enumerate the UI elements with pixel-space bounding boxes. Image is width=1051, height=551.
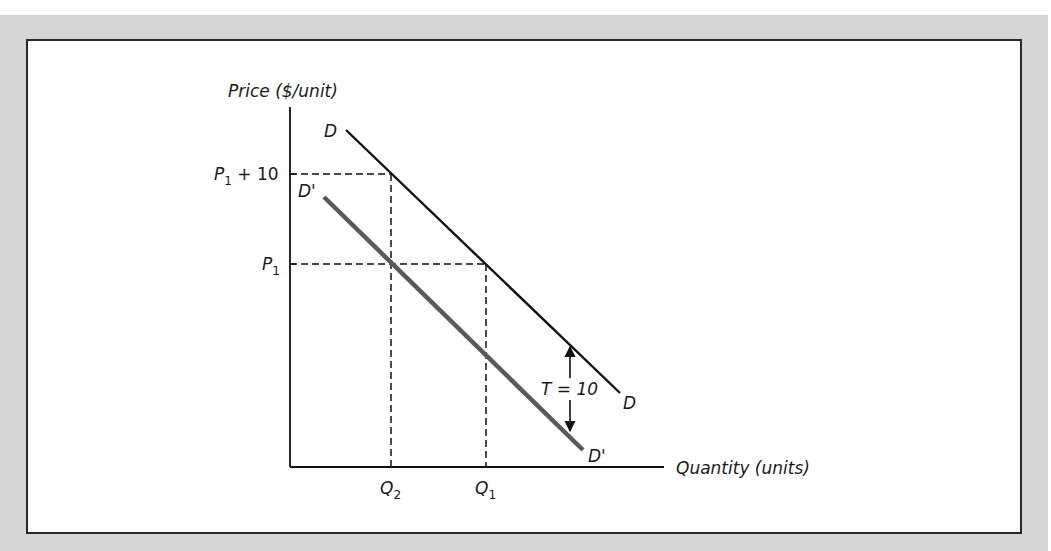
shifted-demand-curve <box>324 197 583 450</box>
tax-annotation: T = 10 <box>541 379 598 399</box>
label-q1: Q1 <box>475 478 496 502</box>
shifted-demand-label-bottom: D' <box>588 446 606 466</box>
label-p1-plus-10: P1 + 10 <box>214 164 279 188</box>
shifted-demand-label-top: D' <box>298 181 316 201</box>
x-axis-label: Quantity (units) <box>676 458 810 478</box>
demand-label-bottom: D <box>623 393 636 413</box>
label-q2: Q2 <box>380 478 401 502</box>
label-p1: P1 <box>262 254 280 278</box>
demand-shift-diagram: Price ($/unit) Quantity (units) P1 + 10 … <box>0 0 1051 551</box>
y-axis-label: Price ($/unit) <box>228 81 338 101</box>
demand-label-top: D <box>324 121 337 141</box>
